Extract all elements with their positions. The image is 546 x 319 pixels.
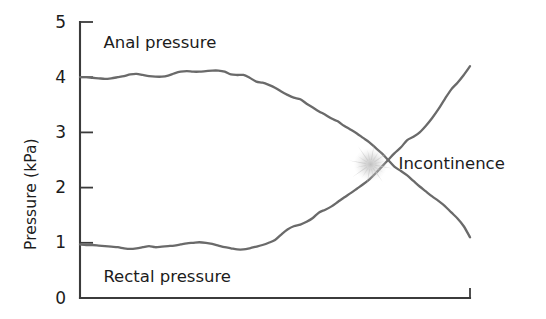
starburst-glow xyxy=(354,147,388,181)
y-tick-label-5: 5 xyxy=(44,14,66,31)
y-tick-label-2: 2 xyxy=(44,179,66,196)
series-label-rectal-pressure: Rectal pressure xyxy=(103,269,231,286)
y-tick-label-0: 0 xyxy=(44,290,66,307)
y-axis-ticks xyxy=(80,22,93,298)
y-axis-title: Pressure (kPa) xyxy=(22,138,40,250)
incontinence-starburst-icon xyxy=(349,143,392,186)
y-tick-label-1: 1 xyxy=(44,234,66,251)
chart-figure: Pressure (kPa) 012345 Anal pressure Rect… xyxy=(0,0,546,319)
annotation-label-incontinence: Incontinence xyxy=(399,156,505,173)
y-tick-label-3: 3 xyxy=(44,124,66,141)
series-label-anal-pressure: Anal pressure xyxy=(103,35,216,52)
y-tick-label-4: 4 xyxy=(44,69,66,86)
